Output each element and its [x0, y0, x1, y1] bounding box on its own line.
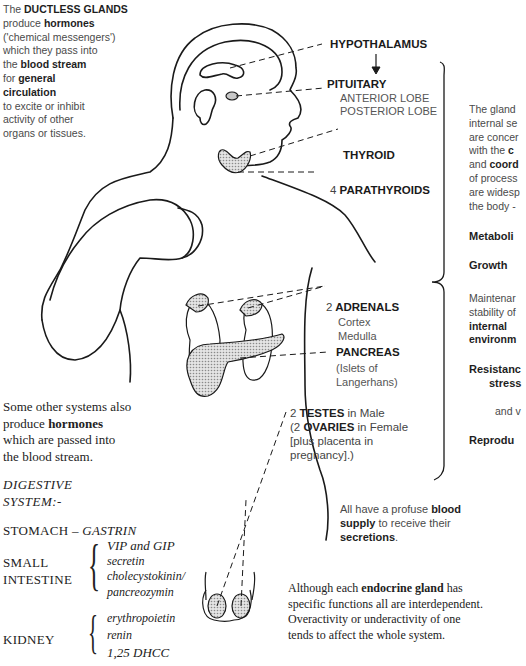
right-text: stability of [469, 306, 516, 320]
neck-back [42, 118, 173, 320]
right-adrenal [240, 300, 262, 316]
intro-text: for [3, 72, 18, 84]
function-reproduction: Reprodu [469, 434, 514, 446]
blood-supply-text: All have a profuse [340, 503, 431, 515]
right-text-bold: stress [469, 376, 521, 390]
intro-text: The [3, 3, 24, 15]
hormone-item: VIP and GIP [107, 538, 185, 554]
torso-left [120, 310, 131, 382]
intro-text: the [3, 58, 21, 70]
right-text: Maintenar [469, 292, 516, 306]
secretions-term: secretions [340, 531, 395, 543]
right-text: of process [469, 172, 526, 186]
footer-text: specific functions all are interdependen… [288, 597, 483, 613]
endocrine-gland-term: endocrine gland [361, 581, 443, 595]
function-resistance: Resistanc stress [469, 362, 521, 390]
shaft-left [205, 572, 206, 600]
footer-text: tends to affect the whole system. [288, 628, 483, 644]
interdependence-paragraph: Although each endocrine gland has specif… [288, 581, 483, 643]
small-intestine-hormones: VIP and GIP secretin cholecystokinin/ pa… [107, 538, 185, 600]
parathyroids-count: 4 [330, 184, 336, 196]
torso-center [305, 268, 328, 540]
label-anterior-lobe: ANTERIOR LOBE [340, 92, 429, 105]
parathyroids-name: PARATHYROIDS [340, 184, 430, 196]
small-intestine-brace: { [88, 537, 100, 593]
heading-line: SYSTEM:- [3, 494, 73, 511]
right-text-bold: c [508, 144, 514, 156]
intro-text: ('chemical messengers') [3, 31, 153, 45]
other-systems-text: the blood stream. [3, 449, 131, 466]
right-text: internal se [469, 117, 526, 131]
footer-text: has [444, 581, 463, 595]
adrenals-name: ADRENALS [335, 301, 399, 313]
supply-term: supply [340, 517, 375, 529]
label-islets-2: Langerhans) [336, 376, 398, 389]
intro-text: produce [3, 17, 44, 29]
footer-text: Overactivity or underactivity of one [288, 612, 483, 628]
other-systems-text: which are passed into [3, 432, 131, 449]
hormone-item: secretin [107, 554, 185, 570]
kidney-label: KIDNEY [3, 632, 55, 649]
right-text: are concer [469, 131, 526, 145]
leader-testes-right [241, 500, 246, 606]
arm [42, 200, 193, 360]
intro-text: which they pass into [3, 44, 153, 58]
right-panel-paragraph: The gland internal se are concer with th… [469, 103, 526, 213]
leader-adrenals-right [248, 286, 325, 308]
hormones-term: hormones [48, 416, 103, 431]
label-medulla: Medulla [338, 330, 377, 343]
function-resistance-cont: and v [495, 405, 521, 419]
leader-testes-left [217, 412, 286, 606]
footer-text: Although each [288, 581, 361, 595]
blood-term: blood [431, 503, 461, 515]
hormone-item: pancreozymin [107, 585, 185, 601]
hormone-item: erythropoietin [107, 610, 175, 627]
thyroid-gland [218, 150, 250, 173]
leader-thyroid [250, 129, 338, 156]
blood-supply-text: to receive their [375, 517, 450, 529]
right-text-bold: coord [489, 158, 518, 170]
organ-label: SMALL [3, 555, 72, 572]
ear [194, 90, 215, 125]
hormone-item: 1,25 DHCC [107, 644, 175, 661]
label-islets-1: (Islets of [336, 362, 378, 375]
ovaries-suffix: in Female [354, 421, 408, 433]
function-metabolism: Metaboli [469, 230, 514, 242]
leader-hypothalamus [230, 44, 322, 68]
circulation-term: circulation [3, 86, 153, 100]
right-text: the body - [469, 200, 526, 214]
label-pituitary: PITUITARY [327, 78, 386, 90]
intro-text: activity of other [3, 113, 153, 127]
hormones-term: hormones [44, 17, 95, 29]
right-text: with the [469, 144, 508, 156]
stomach-label: STOMACH – [3, 523, 82, 538]
kidney-brace: { [88, 610, 98, 656]
function-growth: Growth [469, 259, 508, 271]
general-term: general [18, 72, 55, 84]
other-systems-paragraph: Some other systems also produce hormones… [3, 399, 131, 465]
other-systems-text: produce [3, 416, 48, 431]
function-maintenance: Maintenar stability of internal environm [469, 292, 516, 347]
label-thyroid: THYROID [343, 149, 395, 161]
label-parathyroids: 4 PARATHYROIDS [330, 184, 430, 196]
heading-line: DIGESTIVE [3, 477, 73, 494]
digestive-system-heading: DIGESTIVE SYSTEM:- [3, 477, 73, 510]
label-cortex: Cortex [338, 316, 370, 329]
hormone-item: cholecystokinin/ [107, 569, 185, 585]
label-hypothalamus: HYPOTHALAMUS [330, 38, 427, 50]
blood-supply-note: All have a profuse blood supply to recei… [340, 502, 461, 544]
label-adrenals: 2 ADRENALS [326, 301, 399, 313]
right-text-bold: internal [469, 320, 516, 334]
testes-suffix: in Male [344, 407, 384, 419]
right-text-bold: environm [469, 333, 516, 347]
testes-count: 2 [290, 407, 296, 419]
shaft-right [252, 572, 255, 600]
testes-name: TESTES [300, 407, 345, 419]
left-adrenal [186, 294, 208, 312]
pancreas-gland [187, 334, 284, 396]
organ-label: INTESTINE [3, 572, 72, 589]
ductless-glands-term: DUCTLESS GLANDS [24, 3, 128, 15]
intro-text: organs or tissues. [3, 127, 153, 141]
right-bracket [432, 62, 444, 480]
intro-text: to excite or inhibit [3, 100, 153, 114]
